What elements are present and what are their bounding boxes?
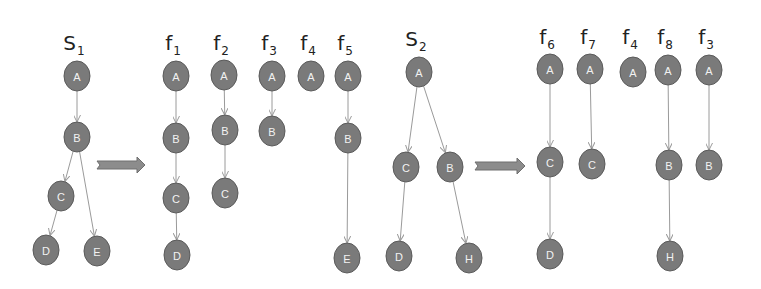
node-label: D bbox=[395, 251, 403, 263]
node-b: B bbox=[163, 123, 189, 153]
edge-s2A-s2C bbox=[408, 87, 417, 151]
node-c: C bbox=[48, 181, 74, 211]
edge-s2C-s2D bbox=[400, 182, 405, 240]
node-a: A bbox=[655, 55, 681, 85]
edge-f8B-f8H bbox=[669, 180, 670, 240]
node-label: A bbox=[629, 67, 637, 79]
node-e: E bbox=[334, 243, 360, 273]
group-label-S2: S2 bbox=[405, 27, 426, 54]
node-label: C bbox=[546, 157, 554, 169]
labels-layer: S1f1f2f3f4f5S2f6f7f4f8f3 bbox=[63, 25, 714, 58]
edge-s1C-s1D bbox=[50, 210, 57, 234]
node-c: C bbox=[212, 178, 238, 208]
node-label: B bbox=[344, 133, 351, 145]
node-label: B bbox=[665, 160, 672, 172]
node-label: D bbox=[546, 249, 554, 261]
edge-f5B-f5E bbox=[347, 153, 348, 242]
node-d: D bbox=[386, 241, 412, 271]
node-label: A bbox=[73, 71, 81, 83]
node-label: A bbox=[268, 71, 276, 83]
transform-arrow-icon bbox=[97, 157, 145, 173]
node-a: A bbox=[163, 61, 189, 91]
node-e: E bbox=[84, 236, 110, 266]
node-a: A bbox=[620, 57, 646, 87]
edge-f7A-f7C bbox=[590, 84, 591, 148]
node-d: D bbox=[33, 235, 59, 265]
group-label-f4: f4 bbox=[300, 31, 316, 58]
node-h: H bbox=[456, 243, 482, 273]
node-label: C bbox=[221, 188, 229, 200]
node-label: C bbox=[402, 162, 410, 174]
group-label-f3b: f3 bbox=[698, 25, 714, 52]
node-label: H bbox=[465, 253, 473, 265]
node-label: B bbox=[705, 160, 712, 172]
edge-s1B-s1E bbox=[80, 152, 95, 235]
node-label: B bbox=[268, 126, 275, 138]
node-label: E bbox=[93, 246, 100, 258]
node-label: A bbox=[546, 64, 554, 76]
decomposition-diagram: ABCDEABCDABCABAABEACBDHACDACAABHAB S1f1f… bbox=[0, 0, 761, 289]
node-label: D bbox=[173, 250, 181, 262]
node-label: D bbox=[42, 245, 50, 257]
node-label: A bbox=[415, 67, 423, 79]
group-label-S1: S1 bbox=[63, 31, 84, 58]
node-label: A bbox=[705, 65, 713, 77]
node-b: B bbox=[212, 115, 238, 145]
node-label: B bbox=[446, 162, 453, 174]
node-b: B bbox=[64, 122, 90, 152]
node-label: A bbox=[220, 70, 228, 82]
edge-s2A-s2B bbox=[424, 86, 445, 152]
node-label: H bbox=[666, 251, 674, 263]
node-c: C bbox=[537, 147, 563, 177]
node-d: D bbox=[537, 239, 563, 269]
group-label-f3: f3 bbox=[261, 31, 277, 58]
node-b: B bbox=[259, 116, 285, 146]
group-label-f6: f6 bbox=[539, 25, 555, 52]
group-label-f4b: f4 bbox=[622, 25, 638, 52]
node-label: B bbox=[172, 133, 179, 145]
node-a: A bbox=[696, 55, 722, 85]
node-a: A bbox=[298, 61, 324, 91]
group-label-f1: f1 bbox=[165, 31, 181, 58]
node-b: B bbox=[437, 152, 463, 182]
node-a: A bbox=[406, 57, 432, 87]
node-label: A bbox=[307, 71, 315, 83]
node-c: C bbox=[579, 149, 605, 179]
edge-s1B-s1C bbox=[65, 151, 73, 180]
node-c: C bbox=[393, 152, 419, 182]
node-a: A bbox=[537, 54, 563, 84]
node-h: H bbox=[657, 241, 683, 271]
node-a: A bbox=[211, 60, 237, 90]
node-label: C bbox=[57, 191, 65, 203]
node-label: E bbox=[343, 253, 350, 265]
group-label-f7: f7 bbox=[580, 25, 596, 52]
node-a: A bbox=[64, 61, 90, 91]
node-label: A bbox=[344, 71, 352, 83]
node-a: A bbox=[577, 54, 603, 84]
node-label: C bbox=[588, 159, 596, 171]
node-b: B bbox=[656, 150, 682, 180]
node-label: B bbox=[73, 132, 80, 144]
node-a: A bbox=[335, 61, 361, 91]
node-label: A bbox=[172, 71, 180, 83]
node-label: A bbox=[586, 64, 594, 76]
edge-s2B-s2H bbox=[453, 182, 466, 243]
node-c: C bbox=[163, 183, 189, 213]
group-label-f8: f8 bbox=[657, 25, 673, 52]
group-label-f2: f2 bbox=[213, 31, 229, 58]
edge-f8A-f8B bbox=[668, 85, 669, 149]
node-label: A bbox=[664, 65, 672, 77]
group-label-f5: f5 bbox=[337, 31, 353, 58]
transform-arrow-icon bbox=[475, 158, 525, 174]
edges-layer bbox=[50, 84, 709, 242]
node-a: A bbox=[259, 61, 285, 91]
node-b: B bbox=[696, 150, 722, 180]
node-d: D bbox=[164, 240, 190, 270]
node-label: C bbox=[172, 193, 180, 205]
node-label: B bbox=[221, 125, 228, 137]
node-b: B bbox=[335, 123, 361, 153]
